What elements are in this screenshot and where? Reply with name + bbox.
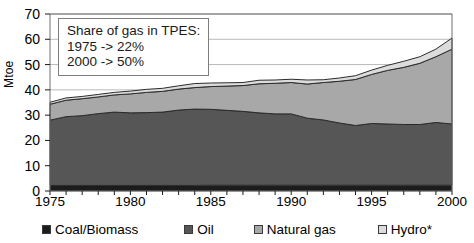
legend-label: Coal/Biomass [55,222,138,237]
y-tick-label: 70 [12,7,40,21]
legend-swatch-icon [378,225,387,234]
x-axis-tick-labels: 197519801985199019952000 [0,194,474,214]
y-tick-label: 50 [12,58,40,72]
y-tick-label: 30 [12,108,40,122]
stacked-area-chart: Mtoe 010203040506070 Share of gas in TPE… [0,0,474,243]
y-tick-label: 10 [12,159,40,173]
legend-label: Oil [197,222,214,237]
x-tick-label: 1980 [115,194,145,209]
annotation-line-2: 1975 -> 22% [67,39,200,55]
x-tick-label: 1995 [357,194,387,209]
y-tick-label: 60 [12,32,40,46]
area-series-coal-biomass [50,185,452,191]
legend-swatch-icon [254,225,263,234]
legend-label: Natural gas [267,222,336,237]
annotation-box: Share of gas in TPES: 1975 -> 22% 2000 -… [58,18,209,76]
y-tick-label: 40 [12,83,40,97]
x-tick-label: 2000 [437,194,467,209]
x-tick-label: 1975 [35,194,65,209]
y-axis-tick-labels: 010203040506070 [10,0,40,200]
legend-label: Hydro* [391,222,432,237]
legend-swatch-icon [184,225,193,234]
annotation-line-1: Share of gas in TPES: [67,23,200,39]
legend-item-natural-gas[interactable]: Natural gas [254,222,336,237]
x-tick-label: 1985 [196,194,226,209]
legend-item-hydro[interactable]: Hydro* [378,222,432,237]
legend-item-oil[interactable]: Oil [184,222,214,237]
chart-legend: Coal/BiomassOilNatural gasHydro* [0,219,474,239]
annotation-line-3: 2000 -> 50% [67,54,200,70]
x-tick-label: 1990 [276,194,306,209]
y-tick-label: 20 [12,133,40,147]
legend-item-coal-biomass[interactable]: Coal/Biomass [42,222,138,237]
legend-swatch-icon [42,225,51,234]
